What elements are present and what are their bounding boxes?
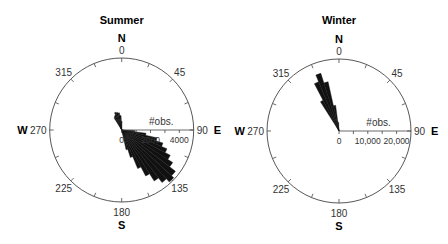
cardinal-e: E bbox=[431, 125, 438, 137]
angle-label: 45 bbox=[174, 67, 186, 78]
chart-title: Winter bbox=[322, 14, 357, 26]
angle-label: 0 bbox=[336, 46, 342, 57]
angle-label: 270 bbox=[247, 126, 264, 137]
cardinal-e: E bbox=[214, 124, 221, 136]
angle-label: 135 bbox=[171, 183, 188, 194]
cardinal-n: N bbox=[335, 33, 343, 45]
angle-label: 180 bbox=[113, 207, 130, 218]
radial-tick-label: 2000 bbox=[141, 135, 160, 145]
angle-label: 315 bbox=[273, 68, 290, 79]
radial-tick-label: 4000 bbox=[170, 135, 189, 145]
cardinal-w: W bbox=[17, 124, 28, 136]
radial-axis-label: #obs. bbox=[366, 117, 390, 128]
angle-label: 180 bbox=[331, 208, 348, 219]
radial-axis-label: #obs. bbox=[149, 116, 173, 127]
chart-title: Summer bbox=[100, 14, 145, 26]
angle-label: 90 bbox=[197, 125, 209, 136]
cardinal-s: S bbox=[335, 220, 342, 232]
angle-label: 90 bbox=[414, 126, 426, 137]
angle-label: 225 bbox=[55, 183, 72, 194]
angle-label: 270 bbox=[30, 125, 47, 136]
cardinal-s: S bbox=[118, 219, 125, 231]
radial-tick-label: 0 bbox=[337, 136, 342, 146]
cardinal-n: N bbox=[118, 32, 126, 44]
rose-winter: Winter010,00020,000#obs.0459013518022527… bbox=[235, 14, 439, 232]
cardinal-w: W bbox=[235, 125, 246, 137]
rose-summer: Summer020004000#obs.04590135180225270315… bbox=[17, 14, 221, 231]
radial-tick-label: 0 bbox=[119, 135, 124, 145]
angle-label: 135 bbox=[389, 184, 406, 195]
angle-label: 45 bbox=[391, 68, 403, 79]
wind-rose-figure: Summer020004000#obs.04590135180225270315… bbox=[0, 0, 448, 244]
radial-tick-label: 20,000 bbox=[384, 136, 410, 146]
angle-label: 315 bbox=[55, 67, 72, 78]
angle-label: 225 bbox=[273, 184, 290, 195]
angle-label: 0 bbox=[119, 45, 125, 56]
radial-tick-label: 10,000 bbox=[355, 136, 381, 146]
